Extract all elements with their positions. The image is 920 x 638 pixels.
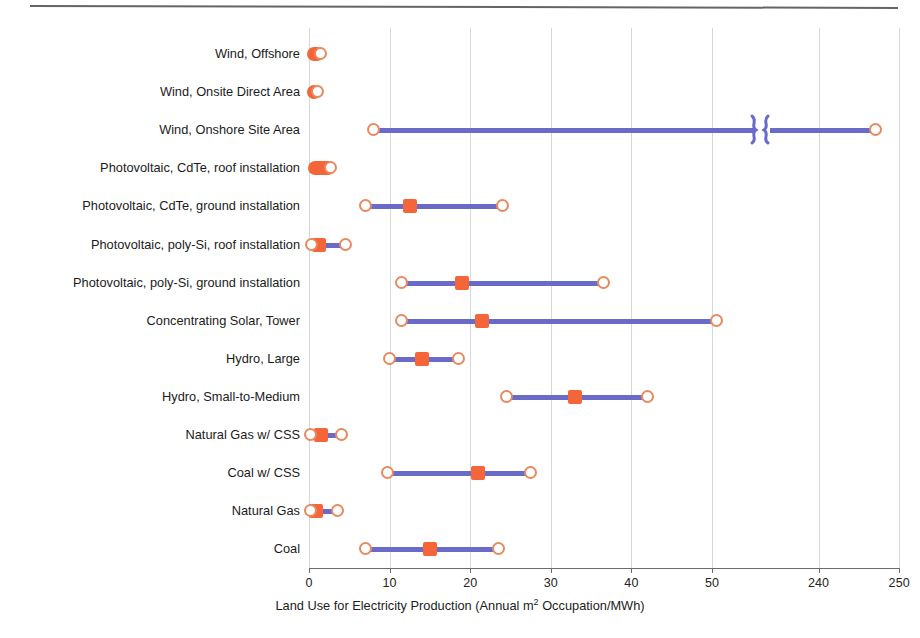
chart-plot-area: 01020304050240250Land Use for Electricit… <box>0 0 920 638</box>
range-high-endpoint <box>314 47 327 60</box>
range-high-endpoint <box>452 352 465 365</box>
mean-marker <box>415 352 429 366</box>
range-high-endpoint <box>335 428 348 441</box>
range-low-endpoint <box>359 199 372 212</box>
category-label: Coal <box>0 535 300 563</box>
mean-marker <box>423 542 437 556</box>
mean-marker <box>568 390 582 404</box>
range-high-endpoint <box>492 542 505 555</box>
category-label: Concentrating Solar, Tower <box>0 307 300 335</box>
axis-tick <box>899 568 900 573</box>
axis-tick-label: 30 <box>521 576 581 590</box>
range-high-endpoint <box>331 504 344 517</box>
range-high-endpoint <box>496 199 509 212</box>
range-high-endpoint <box>597 276 610 289</box>
chart-row: Wind, Offshore <box>0 40 920 68</box>
range-line <box>388 471 531 476</box>
x-axis-title: Land Use for Electricity Production (Ann… <box>0 597 920 613</box>
category-label: Wind, Offshore <box>0 40 300 68</box>
range-line <box>402 281 604 286</box>
axis-tick-label: 20 <box>440 576 500 590</box>
category-label: Natural Gas <box>0 497 300 525</box>
range-line <box>402 319 716 324</box>
chart-row: Photovoltaic, CdTe, ground installation <box>0 192 920 220</box>
axis-tick-label: 0 <box>279 576 339 590</box>
chart-row: Hydro, Small-to-Medium <box>0 383 920 411</box>
range-high-endpoint <box>524 466 537 479</box>
range-high-endpoint <box>311 85 324 98</box>
figure-canvas: 01020304050240250Land Use for Electricit… <box>0 0 920 638</box>
axis-break-icon <box>746 112 780 146</box>
chart-row: Photovoltaic, poly-Si, roof installation <box>0 231 920 259</box>
chart-row: Natural Gas w/ CSS <box>0 421 920 449</box>
range-high-endpoint <box>324 161 337 174</box>
chart-row: Natural Gas <box>0 497 920 525</box>
category-label: Coal w/ CSS <box>0 459 300 487</box>
mean-marker <box>455 276 469 290</box>
chart-row: Photovoltaic, CdTe, roof installation <box>0 154 920 182</box>
mean-marker <box>403 199 417 213</box>
range-line <box>365 204 502 209</box>
chart-row: Photovoltaic, poly-Si, ground installati… <box>0 269 920 297</box>
range-low-endpoint <box>381 466 394 479</box>
category-label: Wind, Onshore Site Area <box>0 116 300 144</box>
range-line <box>373 128 875 133</box>
mean-marker <box>471 466 485 480</box>
axis-tick-label: 240 <box>789 576 849 590</box>
category-label: Photovoltaic, poly-Si, roof installation <box>0 231 300 259</box>
range-low-endpoint <box>395 314 408 327</box>
category-label: Photovoltaic, CdTe, ground installation <box>0 192 300 220</box>
range-low-endpoint <box>383 352 396 365</box>
axis-tick-label: 40 <box>601 576 661 590</box>
category-label: Photovoltaic, poly-Si, ground installati… <box>0 269 300 297</box>
range-low-endpoint <box>395 276 408 289</box>
axis-tick-label: 250 <box>869 576 920 590</box>
range-low-endpoint <box>367 123 380 136</box>
range-high-endpoint <box>710 314 723 327</box>
chart-row: Coal w/ CSS <box>0 459 920 487</box>
chart-row: Wind, Onsite Direct Area <box>0 78 920 106</box>
chart-row: Hydro, Large <box>0 345 920 373</box>
mean-marker <box>475 314 489 328</box>
axis-break-mask <box>754 28 770 568</box>
range-low-endpoint <box>359 542 372 555</box>
category-label: Wind, Onsite Direct Area <box>0 78 300 106</box>
range-high-endpoint <box>339 238 352 251</box>
range-high-endpoint <box>869 123 882 136</box>
range-low-endpoint <box>305 238 318 251</box>
axis-tick-label: 10 <box>360 576 420 590</box>
chart-row: Coal <box>0 535 920 563</box>
category-label: Photovoltaic, CdTe, roof installation <box>0 154 300 182</box>
category-label: Hydro, Large <box>0 345 300 373</box>
chart-row: Concentrating Solar, Tower <box>0 307 920 335</box>
range-low-endpoint <box>500 390 513 403</box>
chart-row: Wind, Onshore Site Area <box>0 116 920 144</box>
range-high-endpoint <box>641 390 654 403</box>
category-label: Natural Gas w/ CSS <box>0 421 300 449</box>
axis-tick-label: 50 <box>682 576 742 590</box>
category-label: Hydro, Small-to-Medium <box>0 383 300 411</box>
x-axis-line <box>309 568 899 569</box>
